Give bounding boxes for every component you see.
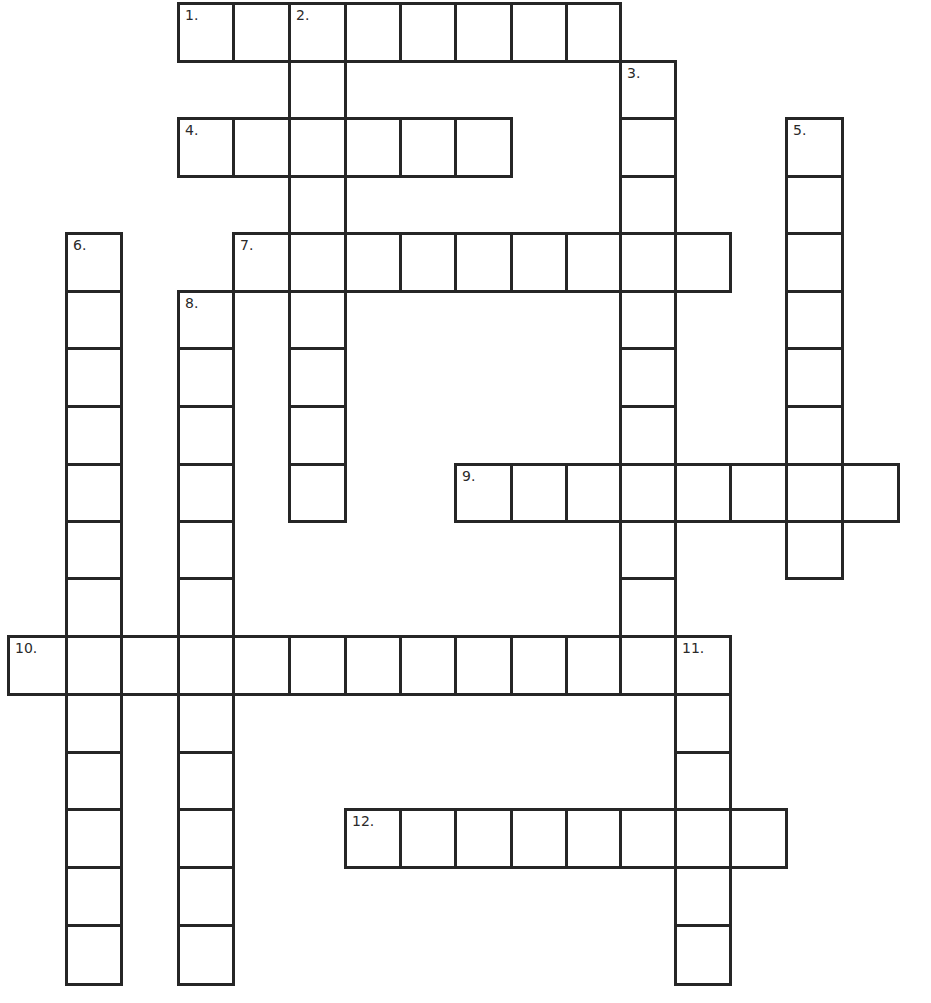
cell-input[interactable] — [677, 696, 729, 751]
crossword-cell[interactable] — [65, 577, 123, 638]
crossword-cell[interactable] — [177, 693, 235, 754]
crossword-cell[interactable] — [399, 117, 457, 178]
crossword-cell[interactable] — [177, 463, 235, 523]
crossword-cell[interactable] — [619, 117, 677, 178]
crossword-cell[interactable] — [177, 405, 235, 466]
cell-input[interactable] — [788, 120, 841, 175]
crossword-cell[interactable] — [65, 635, 123, 696]
cell-input[interactable] — [291, 293, 344, 347]
crossword-cell[interactable] — [65, 924, 123, 986]
cell-input[interactable] — [68, 350, 120, 405]
crossword-cell[interactable] — [619, 520, 677, 580]
cell-input[interactable] — [291, 466, 344, 520]
crossword-cell[interactable] — [344, 232, 402, 293]
cell-input[interactable] — [788, 523, 841, 577]
cell-input[interactable] — [235, 638, 288, 693]
cell-input[interactable] — [457, 120, 510, 175]
cell-input[interactable] — [732, 466, 785, 520]
crossword-cell[interactable] — [177, 751, 235, 811]
cell-input[interactable] — [788, 235, 841, 290]
cell-input[interactable] — [68, 869, 120, 924]
cell-input[interactable] — [568, 5, 619, 60]
cell-input[interactable] — [622, 408, 674, 463]
crossword-cell[interactable] — [232, 2, 291, 63]
crossword-cell[interactable] — [619, 577, 677, 638]
cell-input[interactable] — [291, 235, 344, 290]
crossword-cell[interactable]: 9. — [454, 463, 513, 523]
cell-input[interactable] — [235, 235, 288, 290]
cell-input[interactable] — [788, 293, 841, 347]
cell-input[interactable] — [68, 235, 120, 290]
cell-input[interactable] — [180, 466, 232, 520]
cell-input[interactable] — [10, 638, 65, 693]
cell-input[interactable] — [402, 638, 454, 693]
crossword-cell[interactable] — [177, 808, 235, 869]
crossword-cell[interactable]: 7. — [232, 232, 291, 293]
crossword-cell[interactable] — [120, 635, 180, 696]
cell-input[interactable] — [68, 523, 120, 577]
crossword-cell[interactable] — [510, 232, 568, 293]
crossword-cell[interactable]: 1. — [177, 2, 235, 63]
crossword-cell[interactable] — [65, 347, 123, 408]
cell-input[interactable] — [788, 178, 841, 232]
cell-input[interactable] — [180, 638, 232, 693]
crossword-cell[interactable] — [177, 520, 235, 580]
crossword-cell[interactable] — [288, 175, 347, 235]
cell-input[interactable] — [235, 5, 288, 60]
crossword-cell[interactable] — [344, 117, 402, 178]
cell-input[interactable] — [402, 120, 454, 175]
cell-input[interactable] — [347, 235, 399, 290]
cell-input[interactable] — [347, 811, 399, 866]
crossword-cell[interactable] — [288, 232, 347, 293]
cell-input[interactable] — [457, 5, 510, 60]
cell-input[interactable] — [513, 5, 565, 60]
crossword-cell[interactable] — [785, 175, 844, 235]
crossword-cell[interactable] — [565, 635, 622, 696]
cell-input[interactable] — [788, 408, 841, 463]
cell-input[interactable] — [123, 638, 177, 693]
cell-input[interactable] — [622, 466, 674, 520]
cell-input[interactable] — [513, 638, 565, 693]
cell-input[interactable] — [677, 927, 729, 983]
crossword-cell[interactable] — [785, 232, 844, 293]
cell-input[interactable] — [291, 408, 344, 463]
cell-input[interactable] — [622, 523, 674, 577]
crossword-cell[interactable] — [344, 2, 402, 63]
crossword-cell[interactable]: 6. — [65, 232, 123, 293]
cell-input[interactable] — [457, 811, 510, 866]
crossword-cell[interactable] — [674, 693, 732, 754]
cell-input[interactable] — [68, 580, 120, 635]
crossword-cell[interactable] — [510, 463, 568, 523]
crossword-cell[interactable]: 8. — [177, 290, 235, 350]
cell-input[interactable] — [291, 120, 344, 175]
crossword-cell[interactable] — [674, 232, 732, 293]
cell-input[interactable] — [788, 350, 841, 405]
crossword-cell[interactable] — [177, 866, 235, 927]
crossword-cell[interactable] — [565, 2, 622, 63]
crossword-cell[interactable] — [177, 347, 235, 408]
cell-input[interactable] — [68, 754, 120, 808]
cell-input[interactable] — [622, 235, 674, 290]
crossword-cell[interactable] — [619, 290, 677, 350]
crossword-cell[interactable] — [454, 808, 513, 869]
cell-input[interactable] — [347, 5, 399, 60]
crossword-cell[interactable] — [674, 924, 732, 986]
crossword-cell[interactable] — [65, 290, 123, 350]
crossword-cell[interactable]: 10. — [7, 635, 68, 696]
crossword-cell[interactable] — [399, 232, 457, 293]
cell-input[interactable] — [844, 466, 897, 520]
cell-input[interactable] — [457, 235, 510, 290]
cell-input[interactable] — [402, 811, 454, 866]
cell-input[interactable] — [347, 120, 399, 175]
cell-input[interactable] — [513, 466, 565, 520]
cell-input[interactable] — [677, 638, 729, 693]
cell-input[interactable] — [622, 580, 674, 635]
crossword-cell[interactable] — [65, 751, 123, 811]
cell-input[interactable] — [180, 754, 232, 808]
crossword-cell[interactable] — [674, 808, 732, 869]
crossword-cell[interactable] — [619, 347, 677, 408]
crossword-cell[interactable] — [785, 290, 844, 350]
crossword-cell[interactable] — [65, 405, 123, 466]
cell-input[interactable] — [568, 811, 619, 866]
cell-input[interactable] — [291, 350, 344, 405]
